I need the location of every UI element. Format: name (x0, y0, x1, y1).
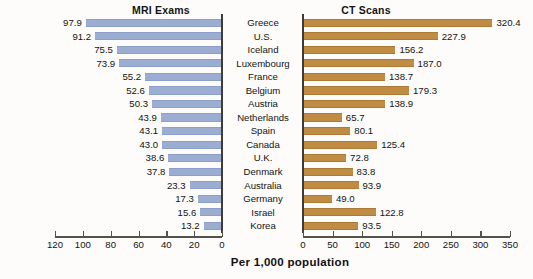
mri-bar (95, 32, 222, 40)
ct-cell: 80.1 (303, 124, 533, 138)
axis-tick (83, 231, 84, 237)
bar-row: 52.6Belgium179.3 (0, 84, 533, 98)
bar-row: 43.1Spain80.1 (0, 124, 533, 138)
category-label: U.K. (225, 151, 301, 165)
ct-value-label: 93.5 (362, 220, 381, 231)
ct-bar (303, 73, 385, 81)
ct-bar (303, 195, 332, 203)
category-label: Australia (225, 179, 301, 193)
mri-value-label: 43.1 (139, 125, 158, 136)
mri-bar (198, 195, 222, 203)
ct-value-label: 138.9 (389, 98, 413, 109)
category-label: Iceland (225, 43, 301, 57)
mri-value-label: 43.9 (138, 112, 157, 123)
mri-bar (119, 59, 222, 67)
ct-cell: 49.0 (303, 192, 533, 206)
bar-row: 23.3Australia93.9 (0, 179, 533, 193)
mri-bar (162, 141, 222, 149)
ct-value-label: 83.8 (357, 166, 376, 177)
mri-bar (161, 113, 222, 121)
ct-bar (303, 141, 377, 149)
mri-bar (190, 181, 222, 189)
bar-row: 97.9Greece320.4 (0, 16, 533, 30)
mri-bar (152, 100, 222, 108)
mri-value-label: 91.2 (72, 31, 91, 42)
axis-tick-label: 350 (490, 239, 530, 250)
mri-bar (200, 208, 222, 216)
bidirectional-bar-chart: MRI Exams CT Scans 97.9Greece320.491.2U.… (0, 0, 533, 279)
mri-cell: 73.9 (0, 57, 222, 71)
x-axis-ct (303, 236, 510, 238)
bar-row: 73.9Luxembourg187.0 (0, 57, 533, 71)
ct-bar (303, 19, 492, 27)
category-label: Israel (225, 206, 301, 220)
mri-cell: 17.3 (0, 192, 222, 206)
ct-cell: 179.3 (303, 84, 533, 98)
bar-row: 43.0Canada125.4 (0, 138, 533, 152)
bar-row: 37.8Denmark83.8 (0, 165, 533, 179)
ct-bar (303, 113, 342, 121)
ct-bar (303, 168, 353, 176)
ct-value-label: 122.8 (380, 207, 404, 218)
axis-tick (194, 231, 195, 237)
ct-value-label: 125.4 (381, 139, 405, 150)
mri-cell: 43.0 (0, 138, 222, 152)
ct-cell: 138.7 (303, 70, 533, 84)
mri-value-label: 43.0 (139, 139, 158, 150)
mri-cell: 43.1 (0, 124, 222, 138)
category-label: Spain (225, 124, 301, 138)
ct-cell: 72.8 (303, 151, 533, 165)
axis-tick (303, 231, 304, 237)
ct-bar (303, 181, 359, 189)
axis-tick (451, 231, 452, 237)
ct-value-label: 156.2 (399, 44, 423, 55)
ct-value-label: 65.7 (346, 112, 365, 123)
ct-cell: 227.9 (303, 30, 533, 44)
mri-value-label: 13.2 (181, 220, 200, 231)
category-label: Austria (225, 97, 301, 111)
ct-cell: 83.8 (303, 165, 533, 179)
category-label: Korea (225, 219, 301, 233)
mri-bar (149, 86, 222, 94)
axis-tick (392, 231, 393, 237)
ct-value-label: 320.4 (496, 17, 520, 28)
mri-value-label: 97.9 (63, 17, 82, 28)
ct-value-label: 227.9 (442, 31, 466, 42)
axis-tick (421, 231, 422, 237)
ct-cell: 93.9 (303, 179, 533, 193)
mri-cell: 55.2 (0, 70, 222, 84)
mri-bar (169, 168, 222, 176)
category-label: Belgium (225, 84, 301, 98)
mri-value-label: 55.2 (123, 71, 142, 82)
axis-tick (139, 231, 140, 237)
ct-value-label: 187.0 (418, 58, 442, 69)
mri-cell: 75.5 (0, 43, 222, 57)
category-label: Greece (225, 16, 301, 30)
mri-bar (204, 222, 222, 230)
mri-value-label: 38.6 (146, 152, 165, 163)
mri-cell: 23.3 (0, 179, 222, 193)
mri-cell: 37.8 (0, 165, 222, 179)
ct-value-label: 179.3 (413, 85, 437, 96)
bar-rows: 97.9Greece320.491.2U.S.227.975.5Iceland1… (0, 16, 533, 233)
ct-cell: 93.5 (303, 219, 533, 233)
panel-title-ct: CT Scans (303, 4, 429, 16)
bar-row: 91.2U.S.227.9 (0, 30, 533, 44)
ct-bar (303, 86, 409, 94)
axis-tick (55, 231, 56, 237)
bar-row: 55.2France138.7 (0, 70, 533, 84)
mri-value-label: 73.9 (96, 58, 115, 69)
ct-bar (303, 127, 350, 135)
category-label: Denmark (225, 165, 301, 179)
zero-line-mri (221, 14, 223, 233)
mri-bar (145, 73, 222, 81)
ct-cell: 320.4 (303, 16, 533, 30)
mri-cell: 43.9 (0, 111, 222, 125)
ct-cell: 122.8 (303, 206, 533, 220)
mri-bar (86, 19, 222, 27)
bar-row: 17.3Germany49.0 (0, 192, 533, 206)
ct-value-label: 93.9 (363, 180, 382, 191)
bar-row: 13.2Korea93.5 (0, 219, 533, 233)
category-label: Canada (225, 138, 301, 152)
bar-row: 75.5Iceland156.2 (0, 43, 533, 57)
